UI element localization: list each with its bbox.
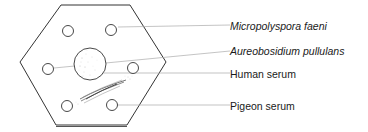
label-aureobosidium-pullulans: Aureobosidium pullulans <box>230 45 344 57</box>
well-top-left <box>63 26 74 37</box>
label-human-serum: Human serum <box>230 68 296 80</box>
label-pigeon-serum: Pigeon serum <box>230 100 295 112</box>
well-bottom-left <box>62 101 73 112</box>
well-bottom-right <box>107 100 118 111</box>
well-center <box>74 48 106 80</box>
well-right <box>128 63 139 74</box>
well-top-right <box>106 25 117 36</box>
well-left <box>43 64 54 75</box>
label-micropolyspora-faeni: Micropolyspora faeni <box>230 20 327 32</box>
